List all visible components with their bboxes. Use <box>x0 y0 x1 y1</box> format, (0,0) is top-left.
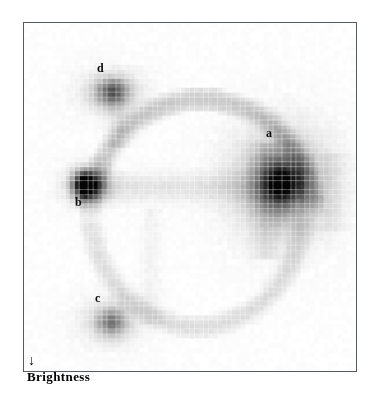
cluster-label-c: c <box>95 292 100 304</box>
cluster-label-b: b <box>75 196 82 208</box>
cluster-label-a: a <box>266 127 272 139</box>
y-axis-label-text: Brightness <box>27 369 90 385</box>
y-axis-direction-label: ↓ Brightness <box>27 354 90 385</box>
density-heatmap-canvas <box>24 23 356 371</box>
cluster-label-d: d <box>97 62 104 74</box>
plot-frame <box>23 22 357 372</box>
arrow-down-icon: ↓ <box>28 354 35 368</box>
figure-root: Texture → a b c d ↓ Brightness <box>0 0 377 399</box>
